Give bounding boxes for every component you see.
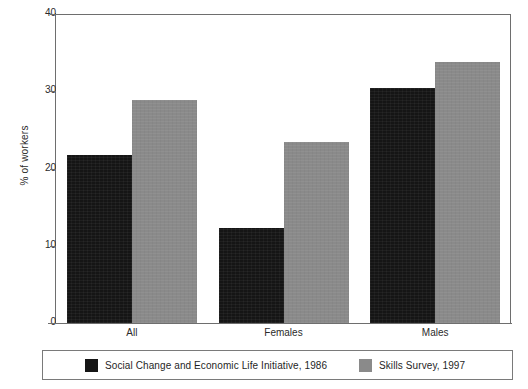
bar-chart-figure: % of workers 010203040 AllFemalesMales S…: [0, 0, 528, 389]
bar-females-series2: [284, 142, 349, 323]
bar-males-series1: [370, 88, 435, 323]
bar-females-series1: [219, 228, 284, 323]
plot-area: [56, 14, 511, 323]
x-axis-tick-label-females: Females: [234, 327, 334, 338]
bar-males-series2: [435, 62, 500, 323]
legend-label: Social Change and Economic Life Initiati…: [105, 360, 327, 371]
gray-swatch: [359, 359, 372, 372]
legend-item-1: Social Change and Economic Life Initiati…: [85, 359, 327, 372]
y-axis-tick-label: 10: [20, 239, 56, 250]
chart-legend: Social Change and Economic Life Initiati…: [42, 350, 513, 380]
y-axis-tick-label: 30: [20, 84, 56, 95]
y-axis-tick-label: 0: [20, 316, 56, 327]
legend-item-2: Skills Survey, 1997: [359, 359, 465, 372]
y-axis-tick-mark: [50, 323, 56, 324]
y-axis-tick-label: 40: [20, 7, 56, 18]
bar-all-series1: [67, 155, 132, 323]
x-axis-line: [48, 323, 512, 324]
bar-all-series2: [132, 100, 197, 323]
y-axis-title: % of workers: [19, 96, 30, 216]
y-axis-tick-label: 20: [20, 162, 56, 173]
x-axis-tick-label-males: Males: [385, 327, 485, 338]
legend-label: Skills Survey, 1997: [379, 360, 465, 371]
black-swatch: [85, 359, 98, 372]
x-axis-tick-label-all: All: [82, 327, 182, 338]
